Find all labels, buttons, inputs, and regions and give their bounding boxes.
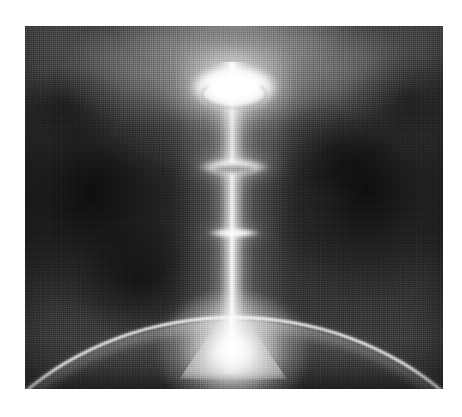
photograph-plate bbox=[25, 26, 443, 389]
top-disc-inner-arc bbox=[201, 79, 267, 109]
lower-ring bbox=[206, 227, 262, 238]
figure-root bbox=[0, 0, 462, 417]
middle-ring-inner-shadow bbox=[214, 165, 254, 172]
